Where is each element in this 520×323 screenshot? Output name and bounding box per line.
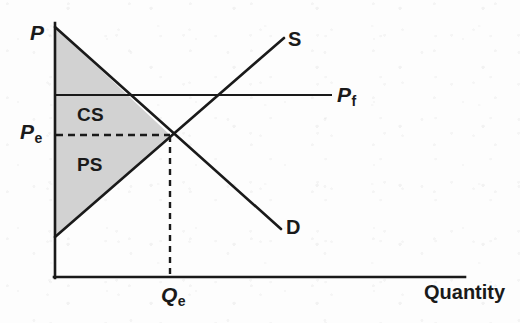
consumer-surplus-label-text: CS (77, 104, 104, 125)
equilibrium-price-label: Pe (20, 121, 42, 142)
surplus-shaded-region (54, 27, 170, 237)
supply-demand-figure: P Pe Pf S D CS PS Qe Quantity (0, 0, 520, 323)
world-price-label-subscript: f (352, 93, 357, 109)
equilibrium-quantity-label-text: Q (161, 283, 177, 306)
quantity-axis-title: Quantity (424, 282, 505, 302)
world-price-label: Pf (337, 84, 356, 105)
supply-curve-label: S (288, 29, 301, 49)
equilibrium-quantity-label: Qe (161, 284, 185, 305)
quantity-axis-title-text: Quantity (424, 281, 505, 303)
demand-curve-label: D (286, 217, 300, 237)
price-axis-label-text: P (30, 21, 44, 44)
demand-curve-label-text: D (286, 216, 300, 238)
equilibrium-quantity-label-subscript: e (178, 293, 186, 309)
equilibrium-price-label-text: P (20, 120, 34, 143)
consumer-surplus-label: CS (77, 105, 104, 124)
equilibrium-price-label-subscript: e (35, 130, 43, 146)
world-price-label-text: P (337, 83, 351, 106)
producer-surplus-label-text: PS (77, 154, 103, 175)
price-axis-label: P (30, 22, 44, 43)
producer-surplus-label: PS (77, 155, 103, 174)
supply-curve-label-text: S (288, 28, 301, 50)
